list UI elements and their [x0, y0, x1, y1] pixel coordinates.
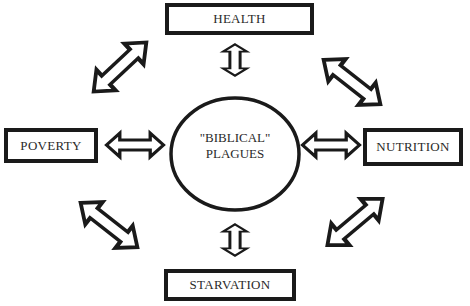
arrow-starvation-center-icon [223, 224, 247, 255]
node-nutrition-label: NUTRITION [376, 139, 449, 155]
node-nutrition: NUTRITION [363, 128, 463, 166]
arrow-nutrition-starvation-icon [318, 188, 391, 256]
center-label-line1: "BIBLICAL" [185, 130, 285, 146]
arrow-health-nutrition-icon [315, 49, 389, 115]
arrow-poverty-center-icon [107, 133, 164, 157]
center-label: "BIBLICAL" PLAGUES [185, 130, 285, 162]
arrow-nutrition-center-icon [303, 133, 360, 157]
node-starvation: STARVATION [164, 269, 296, 301]
node-starvation-label: STARVATION [190, 277, 271, 293]
node-poverty-label: POVERTY [20, 138, 81, 154]
node-health-label: HEALTH [213, 11, 266, 27]
node-health: HEALTH [165, 3, 314, 35]
arrow-health-poverty-icon [84, 32, 156, 102]
arrow-poverty-starvation-icon [72, 192, 146, 258]
arrow-health-center-icon [223, 44, 247, 75]
node-poverty: POVERTY [4, 128, 98, 163]
center-label-line2: PLAGUES [185, 146, 285, 162]
